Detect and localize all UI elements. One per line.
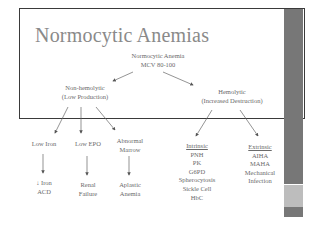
diagram-arrows bbox=[0, 0, 318, 237]
